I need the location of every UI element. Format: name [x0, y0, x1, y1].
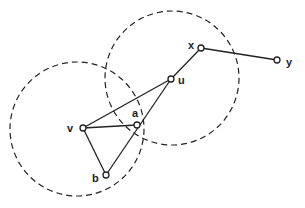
node-label-a: a [132, 107, 139, 119]
graph-diagram: xyuavb [0, 0, 305, 208]
edge-x-u [171, 48, 201, 79]
node-x [198, 45, 204, 51]
node-u [168, 76, 174, 82]
edge-u-v [83, 79, 171, 128]
node-label-b: b [92, 172, 99, 184]
edge-v-a [83, 125, 137, 128]
node-label-x: x [188, 39, 195, 51]
node-label-v: v [67, 122, 74, 134]
node-b [103, 172, 109, 178]
diagram-svg: xyuavb [0, 0, 305, 208]
node-label-u: u [178, 74, 185, 86]
node-a [134, 122, 140, 128]
node-y [274, 57, 280, 63]
edge-x-y [201, 48, 277, 60]
edge-v-b [83, 128, 106, 175]
disk-around-v [10, 62, 144, 196]
node-label-y: y [286, 56, 293, 68]
node-v [80, 125, 86, 131]
